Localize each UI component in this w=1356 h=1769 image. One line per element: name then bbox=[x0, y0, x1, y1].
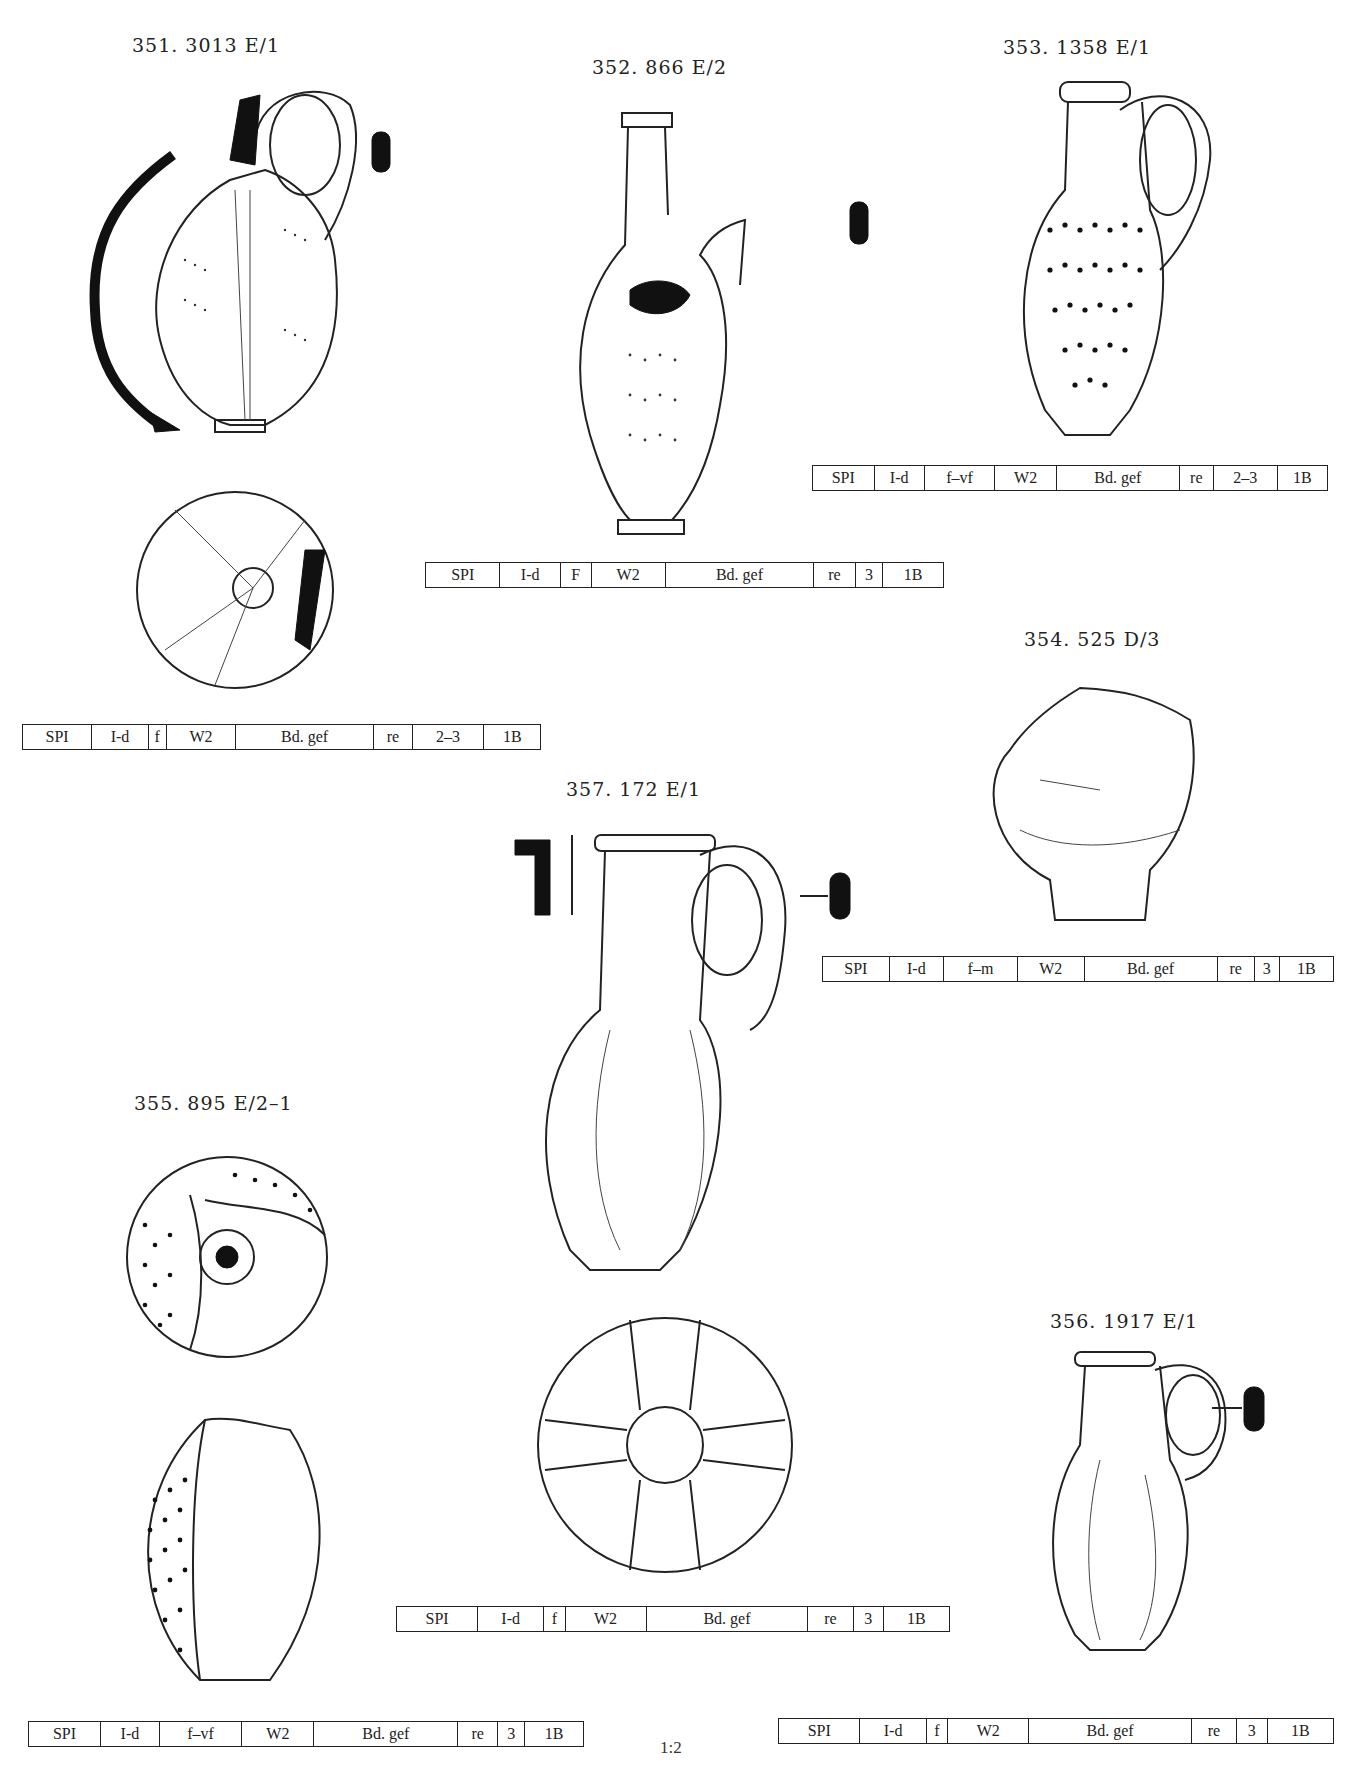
cell-ware: SPI bbox=[29, 1722, 101, 1747]
cell-type: I-d bbox=[860, 1719, 926, 1744]
cell-condition: Bd. gef bbox=[646, 1607, 808, 1632]
caption-352: 352. 866 E/2 bbox=[592, 56, 727, 78]
base-view-351 bbox=[135, 490, 365, 700]
caption-355: 355. 895 E/2–1 bbox=[134, 1092, 293, 1114]
cell-ware: SPI bbox=[813, 466, 875, 491]
cell-condition: Bd. gef bbox=[1029, 1719, 1191, 1744]
cell-type: I-d bbox=[478, 1607, 544, 1632]
jug-352-drawing bbox=[560, 105, 800, 535]
cell-ware: SPI bbox=[823, 957, 890, 982]
cell-phase: 3 bbox=[498, 1722, 525, 1747]
section-357 bbox=[800, 868, 860, 928]
cell-firing: re bbox=[814, 563, 855, 588]
cell-type: I-d bbox=[101, 1722, 160, 1747]
cell-fabric: f–m bbox=[943, 957, 1017, 982]
top-view-355 bbox=[125, 1155, 335, 1365]
cell-ware-group: W2 bbox=[565, 1607, 646, 1632]
cell-type: I-d bbox=[92, 725, 148, 750]
jug-354-drawing bbox=[980, 680, 1200, 930]
table-351: SPI I-d f W2 Bd. gef re 2–3 1B bbox=[22, 724, 541, 750]
section-352 bbox=[848, 200, 878, 250]
cell-fabric: f bbox=[148, 725, 166, 750]
cell-fabric: f–vf bbox=[159, 1722, 242, 1747]
jug-355-drawing bbox=[130, 1410, 350, 1690]
cell-firing: re bbox=[374, 725, 413, 750]
cell-ware-group: W2 bbox=[1018, 957, 1085, 982]
table-353: SPI I-d f–vf W2 Bd. gef re 2–3 1B bbox=[812, 465, 1328, 491]
cell-ware: SPI bbox=[779, 1719, 860, 1744]
cell-ware-group: W2 bbox=[948, 1719, 1029, 1744]
table-356: SPI I-d f W2 Bd. gef re 3 1B bbox=[778, 1718, 1334, 1744]
cell-phase: 3 bbox=[853, 1607, 883, 1632]
cell-ware-group: W2 bbox=[995, 466, 1057, 491]
table-355: SPI I-d f–vf W2 Bd. gef re 3 1B bbox=[28, 1721, 584, 1747]
cell-fabric: F bbox=[560, 563, 591, 588]
cell-condition: Bd. gef bbox=[314, 1722, 458, 1747]
cell-phase: 3 bbox=[1254, 957, 1279, 982]
cell-phase: 3 bbox=[1237, 1719, 1267, 1744]
cell-condition: Bd. gef bbox=[236, 725, 374, 750]
cell-phase: 3 bbox=[855, 563, 883, 588]
cell-type: I-d bbox=[500, 563, 561, 588]
cell-fabric: f bbox=[544, 1607, 565, 1632]
caption-354: 354. 525 D/3 bbox=[1024, 628, 1160, 650]
cell-group: 1B bbox=[883, 1607, 949, 1632]
cell-firing: re bbox=[808, 1607, 853, 1632]
cell-group: 1B bbox=[1277, 466, 1327, 491]
cell-firing: re bbox=[1179, 466, 1213, 491]
jug-357-drawing bbox=[530, 830, 800, 1270]
cell-condition: Bd. gef bbox=[1056, 466, 1179, 491]
cell-group: 1B bbox=[525, 1722, 584, 1747]
section-351 bbox=[370, 130, 400, 180]
cell-group: 1B bbox=[883, 563, 944, 588]
cell-phase: 2–3 bbox=[412, 725, 484, 750]
cell-firing: re bbox=[458, 1722, 498, 1747]
cell-firing: re bbox=[1191, 1719, 1236, 1744]
cell-ware: SPI bbox=[23, 725, 92, 750]
cell-fabric: f–vf bbox=[924, 466, 995, 491]
cell-ware-group: W2 bbox=[242, 1722, 314, 1747]
cell-type: I-d bbox=[889, 957, 943, 982]
scale-label: 1:2 bbox=[660, 1738, 682, 1758]
cell-phase: 2–3 bbox=[1213, 466, 1277, 491]
cell-fabric: f bbox=[926, 1719, 947, 1744]
cell-condition: Bd. gef bbox=[665, 563, 813, 588]
section-356 bbox=[1212, 1383, 1272, 1443]
cell-ware-group: W2 bbox=[591, 563, 665, 588]
table-352: SPI I-d F W2 Bd. gef re 3 1B bbox=[425, 562, 944, 588]
cell-ware-group: W2 bbox=[166, 725, 235, 750]
table-357: SPI I-d f W2 Bd. gef re 3 1B bbox=[396, 1606, 950, 1632]
cell-group: 1B bbox=[484, 725, 541, 750]
base-view-357 bbox=[535, 1280, 795, 1580]
jug-351-drawing bbox=[85, 80, 385, 410]
caption-351: 351. 3013 E/1 bbox=[132, 34, 280, 56]
cell-ware: SPI bbox=[397, 1607, 478, 1632]
caption-357: 357. 172 E/1 bbox=[566, 778, 701, 800]
table-354: SPI I-d f–m W2 Bd. gef re 3 1B bbox=[822, 956, 1334, 982]
cell-type: I-d bbox=[874, 466, 924, 491]
cell-firing: re bbox=[1217, 957, 1254, 982]
cell-ware: SPI bbox=[426, 563, 500, 588]
cell-group: 1B bbox=[1279, 957, 1333, 982]
caption-356: 356. 1917 E/1 bbox=[1050, 1310, 1198, 1332]
cell-condition: Bd. gef bbox=[1084, 957, 1217, 982]
jug-353-drawing bbox=[1010, 80, 1230, 450]
caption-353: 353. 1358 E/1 bbox=[1003, 36, 1151, 58]
cell-group: 1B bbox=[1267, 1719, 1333, 1744]
